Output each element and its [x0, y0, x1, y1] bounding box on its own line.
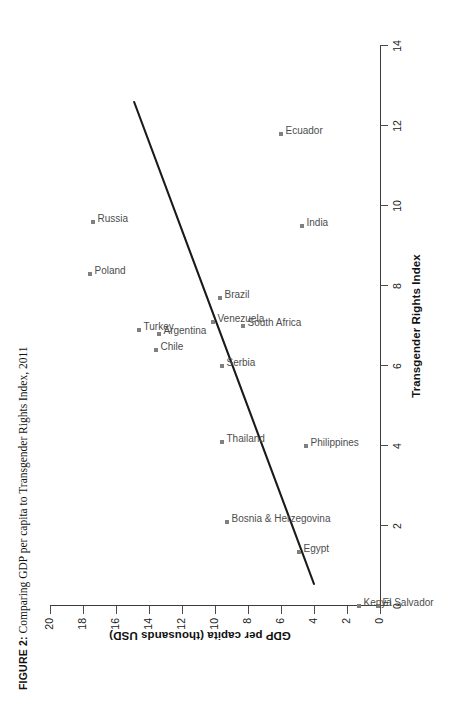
y-tick — [116, 606, 117, 614]
data-point-marker[interactable] — [300, 224, 304, 228]
data-point-marker[interactable] — [218, 296, 222, 300]
x-axis-title: Transgender Rights Index — [410, 46, 422, 606]
data-point-marker[interactable] — [220, 364, 224, 368]
data-point-marker[interactable] — [154, 348, 158, 352]
data-point-label: Poland — [94, 265, 125, 276]
data-point-label: Egypt — [304, 543, 330, 554]
y-tick — [182, 606, 183, 614]
y-tick — [83, 606, 84, 614]
data-point-marker[interactable] — [88, 272, 92, 276]
data-point-marker[interactable] — [357, 604, 361, 608]
x-tick-label: 8 — [391, 273, 403, 299]
y-tick — [50, 606, 51, 614]
rotated-figure-container: FIGURE 2: Comparing GDP per capita to Tr… — [0, 0, 462, 716]
y-tick — [314, 606, 315, 614]
data-point-label: Bosnia & Herzegovina — [231, 513, 330, 524]
data-point-label: India — [307, 217, 329, 228]
x-tick-label: 2 — [391, 513, 403, 539]
x-tick — [380, 125, 388, 126]
y-axis-title: GDP per capita (thousands USD) — [50, 630, 350, 642]
x-tick-label: 14 — [391, 33, 403, 59]
y-tick — [347, 606, 348, 614]
data-point-label: Ecuador — [286, 125, 323, 136]
x-tick-label: 6 — [391, 353, 403, 379]
data-point-label: Kenya — [363, 597, 391, 608]
x-tick — [380, 205, 388, 206]
data-point-label: Serbia — [226, 357, 255, 368]
data-point-marker[interactable] — [137, 328, 141, 332]
figure-page: FIGURE 2: Comparing GDP per capita to Tr… — [0, 0, 462, 716]
data-point-marker[interactable] — [157, 332, 161, 336]
y-tick — [281, 606, 282, 614]
x-tick-label: 4 — [391, 433, 403, 459]
x-tick-label: 12 — [391, 113, 403, 139]
data-point-marker[interactable] — [220, 440, 224, 444]
x-tick-label: 10 — [391, 193, 403, 219]
x-tick — [380, 285, 388, 286]
data-point-label: Brazil — [224, 289, 249, 300]
y-tick — [215, 606, 216, 614]
data-point-label: Venezuela — [218, 313, 265, 324]
data-point-marker[interactable] — [225, 520, 229, 524]
data-point-label: Turkey — [144, 321, 174, 332]
y-tick-label: 0 — [373, 618, 385, 646]
x-tick — [380, 365, 388, 366]
data-point-label: Chile — [160, 341, 183, 352]
data-point-marker[interactable] — [304, 444, 308, 448]
data-point-marker[interactable] — [279, 132, 283, 136]
data-point-label: Russia — [97, 213, 128, 224]
data-point-marker[interactable] — [241, 324, 245, 328]
figure-caption-text: Comparing GDP per capita to Transgender … — [17, 346, 29, 636]
x-tick — [380, 445, 388, 446]
data-point-marker[interactable] — [91, 220, 95, 224]
y-tick — [149, 606, 150, 614]
figure-caption: FIGURE 2: Comparing GDP per capita to Tr… — [16, 30, 30, 690]
plot-area: 02468101214161820 02468101214 GDP per ca… — [44, 28, 436, 690]
figure-number: FIGURE 2: — [17, 636, 29, 690]
x-tick — [380, 525, 388, 526]
data-point-marker[interactable] — [297, 550, 301, 554]
x-axis-line — [380, 46, 381, 606]
data-point-label: Thailand — [226, 433, 264, 444]
data-point-label: Philippines — [310, 437, 358, 448]
x-tick — [380, 45, 388, 46]
data-point-marker[interactable] — [211, 320, 215, 324]
y-tick — [248, 606, 249, 614]
